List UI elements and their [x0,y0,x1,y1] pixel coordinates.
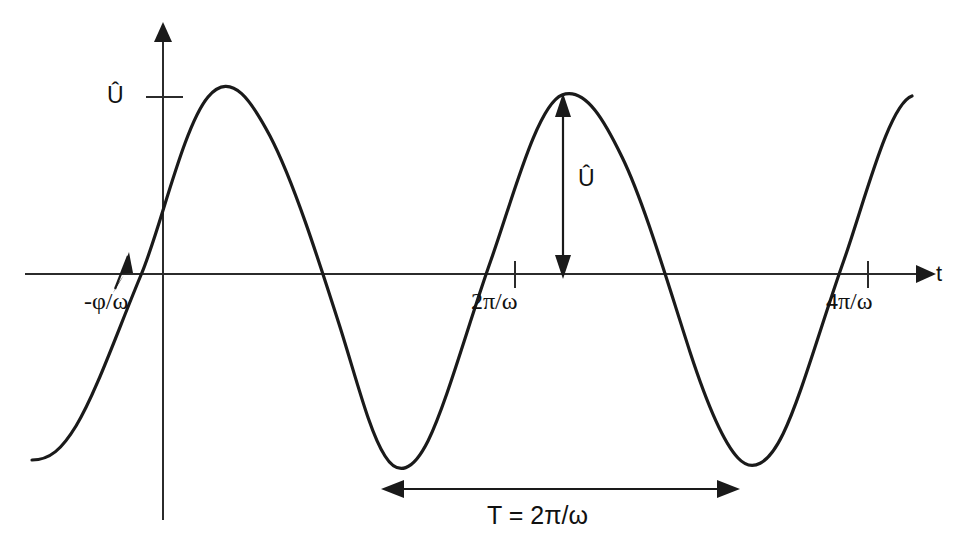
amplitude-axis-label: Û [107,82,124,109]
period-label: T = 2π/ω [487,501,588,530]
tick-group [146,97,868,288]
time-axis-arrowhead [916,265,936,283]
period-arrow-head-left [381,480,404,498]
amplitude-arrow-head-down [555,255,571,279]
amplitude-measure-arrow-group [555,93,571,279]
tick-label-4pi-over-omega: 4π/ω [826,288,873,315]
time-axis-label: t [936,261,942,287]
tick-label-2pi-over-omega: 2π/ω [471,288,518,315]
voltage-axis-arrowhead [154,22,172,42]
amplitude-arrow-label: Û [578,165,595,192]
phase-shift-pointer-tip [121,252,133,274]
phase-shift-label: -φ/ω [84,288,128,315]
waveform-canvas [0,0,975,555]
phase-shift-pointer-group [113,252,133,293]
waveform-figure: Û Û -φ/ω 2π/ω 4π/ω t T = 2π/ω [0,0,975,555]
period-arrow-head-right [717,480,740,498]
period-measure-arrow-group [381,480,740,498]
